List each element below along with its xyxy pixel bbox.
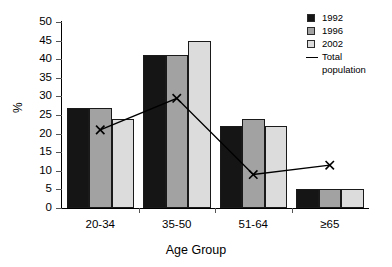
y-tick-label: 15 — [26, 146, 52, 158]
x-axis-title: Age Group — [0, 243, 392, 257]
y-tick-label: 35 — [26, 72, 52, 84]
legend-item-1996: 1996 — [306, 25, 392, 37]
x-tick-mark — [215, 208, 216, 213]
y-tick-label: 25 — [26, 109, 52, 121]
x-tick-label: ≥65 — [292, 218, 369, 230]
legend-label: 2002 — [322, 38, 392, 49]
x-tick-label: 35-50 — [139, 218, 216, 230]
x-tick-mark — [139, 208, 140, 213]
legend-swatch-icon — [307, 40, 315, 48]
line-path — [100, 98, 329, 174]
legend-swatch-icon — [307, 14, 315, 22]
y-tick-label: 45 — [26, 35, 52, 47]
y-tick-mark — [56, 208, 62, 209]
legend-label: Total — [322, 51, 392, 62]
y-axis-title: % — [11, 102, 25, 113]
bar-chart: % Age Group 50454035302520151050 20-3435… — [0, 0, 392, 267]
line-marker-35-50 — [173, 94, 181, 102]
y-tick-label: 50 — [26, 16, 52, 28]
legend-line-icon — [306, 57, 318, 59]
legend-swatch-icon — [307, 27, 315, 35]
legend-label: 1996 — [322, 25, 392, 36]
legend-label-line2: population — [306, 64, 392, 75]
y-tick-label: 0 — [26, 202, 52, 214]
legend-item-1992: 1992 — [306, 12, 392, 24]
y-tick-label: 40 — [26, 53, 52, 65]
y-tick-label: 5 — [26, 183, 52, 195]
line-marker-20-34 — [96, 126, 104, 134]
legend-item-total: Total — [306, 51, 392, 63]
x-tick-mark — [292, 208, 293, 213]
y-tick-label: 10 — [26, 165, 52, 177]
legend-label: 1992 — [322, 12, 392, 23]
y-tick-label: 20 — [26, 128, 52, 140]
x-tick-label: 51-64 — [215, 218, 292, 230]
x-tick-label: 20-34 — [62, 218, 139, 230]
y-tick-label: 30 — [26, 90, 52, 102]
legend-item-2002: 2002 — [306, 38, 392, 50]
chart-legend: 199219962002Totalpopulation — [306, 12, 392, 75]
